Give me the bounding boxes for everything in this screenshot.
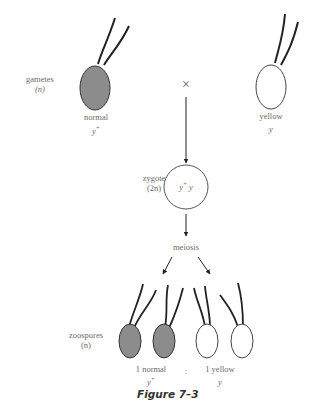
zygote-allele-b: y bbox=[189, 182, 193, 192]
zygote-label: zygote (2n) bbox=[140, 173, 168, 193]
figure-caption: Figure 7–3 bbox=[137, 388, 199, 400]
diagram-canvas bbox=[0, 0, 309, 405]
gamete-yellow-genotype: y bbox=[265, 124, 277, 134]
zoospore-normal-1 bbox=[119, 284, 156, 358]
gamete-yellow-phenotype: yellow bbox=[255, 111, 287, 121]
normal-zoospore-genotype: y+ bbox=[143, 377, 159, 387]
zygote-label-text: zygote bbox=[140, 173, 168, 183]
zoospores-ploidy: (n) bbox=[64, 340, 108, 350]
zoospore-yellow-2 bbox=[220, 283, 253, 358]
zygote-allele-a-sup: + bbox=[183, 181, 187, 187]
zoospores-label: zoospores (n) bbox=[64, 330, 108, 350]
gamete-normal-cell bbox=[80, 18, 129, 110]
zygote-ploidy: (2n) bbox=[140, 183, 168, 193]
meiosis-left-arrow bbox=[163, 257, 172, 274]
ratio-separator: : bbox=[182, 366, 190, 376]
meiosis-right-arrow bbox=[198, 257, 210, 274]
zoospore-normal-2 bbox=[153, 285, 183, 358]
gamete-normal-phenotype: normal bbox=[78, 112, 114, 122]
yellow-zoospore-genotype: y bbox=[214, 377, 226, 387]
yellow-count: 1 yellow bbox=[200, 364, 240, 374]
zoospores-label-text: zoospores bbox=[64, 330, 108, 340]
meiosis-label: meiosis bbox=[166, 242, 206, 252]
genotype-sup: + bbox=[151, 376, 155, 382]
genotype-sup: + bbox=[96, 125, 100, 131]
gametes-label-text: gametes bbox=[22, 74, 58, 84]
gametes-ploidy: (n) bbox=[22, 84, 58, 94]
normal-count: 1 normal bbox=[131, 364, 171, 374]
gametes-label: gametes (n) bbox=[22, 74, 58, 94]
zoospore-yellow-1 bbox=[194, 286, 218, 358]
cross-symbol: × bbox=[179, 80, 193, 90]
gamete-normal-genotype: y+ bbox=[84, 126, 108, 136]
gamete-yellow-cell bbox=[256, 14, 298, 109]
zygote-genotype: y+ y bbox=[170, 182, 202, 192]
